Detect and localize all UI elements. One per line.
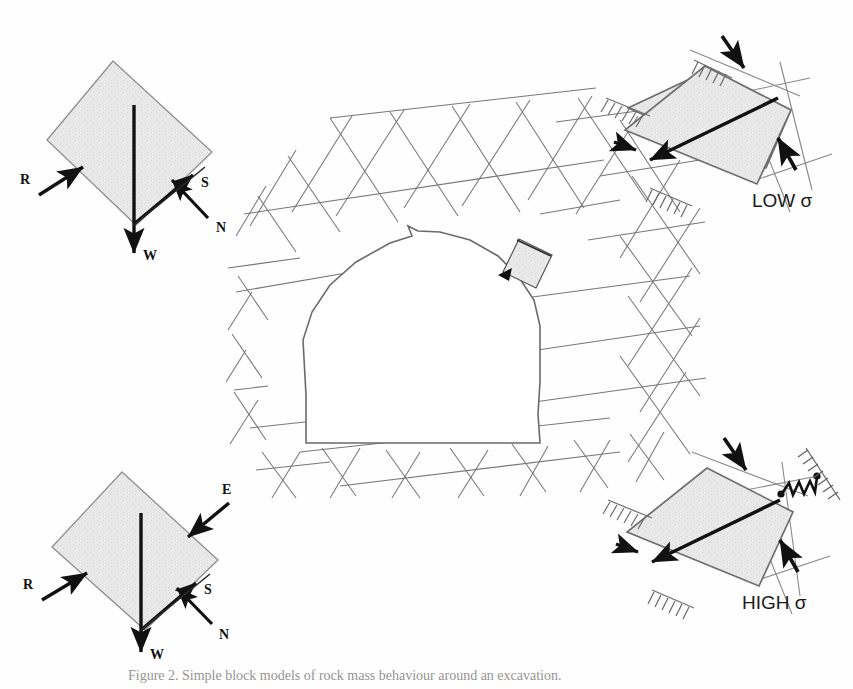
load-arrow-top	[722, 36, 744, 68]
figure-canvas: R S N W E R S N W	[0, 0, 853, 689]
figure-svg: R S N W E R S N W	[0, 0, 853, 689]
rock-block	[47, 61, 212, 225]
panel-top-right: LOW σ	[601, 36, 832, 217]
low-stress-label: LOW σ	[752, 190, 813, 211]
spring-support-assembly	[777, 448, 840, 500]
tunnel-opening-outline	[303, 226, 540, 443]
label-n: N	[219, 627, 229, 642]
label-r: R	[23, 577, 34, 592]
label-e: E	[222, 482, 231, 497]
label-w: W	[143, 248, 157, 263]
load-arrow-left	[616, 544, 638, 552]
label-s: S	[201, 175, 209, 190]
panel-top-left: R S N W	[20, 61, 226, 263]
reaction-vector-r	[39, 167, 83, 195]
label-n: N	[216, 220, 226, 235]
panel-bottom-left: E R S N W	[23, 472, 231, 662]
panel-bottom-right: HIGH σ	[603, 438, 840, 619]
high-stress-label: HIGH σ	[742, 592, 807, 613]
load-arrow-right	[778, 138, 796, 170]
external-load-vector-e	[188, 503, 229, 537]
load-arrow-right	[780, 540, 798, 572]
label-s: S	[204, 582, 212, 597]
label-w: W	[150, 647, 164, 662]
label-r: R	[20, 172, 31, 187]
reaction-vector-r	[42, 573, 87, 600]
figure-caption: Figure 2. Simple block models of rock ma…	[128, 668, 688, 689]
